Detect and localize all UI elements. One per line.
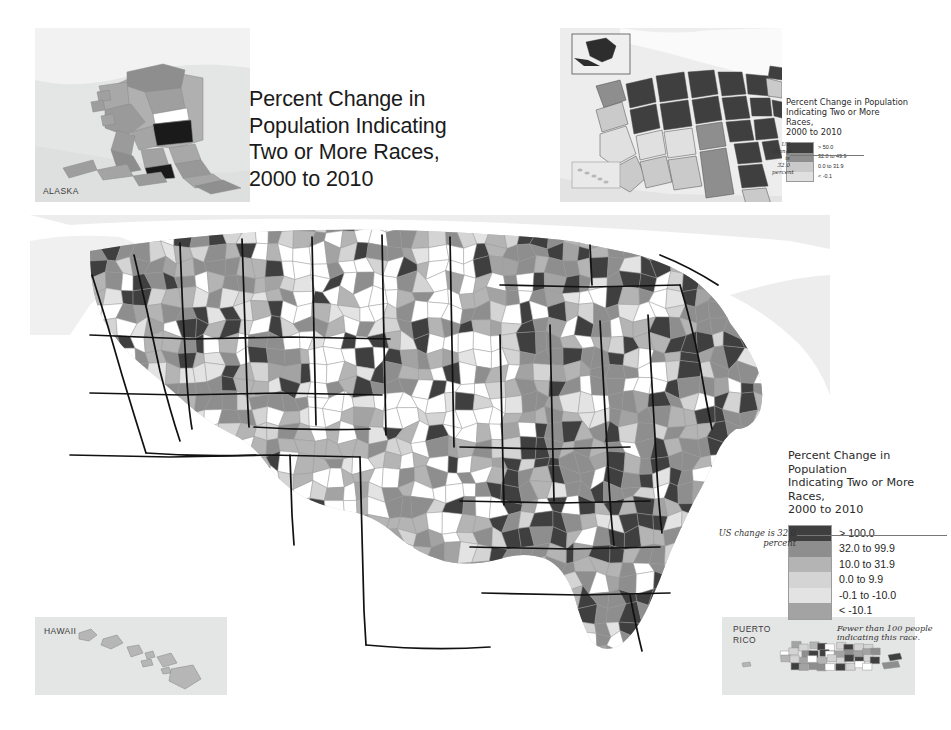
county-polygon[interactable] bbox=[300, 364, 310, 384]
state-polygon[interactable] bbox=[754, 118, 778, 140]
puerto-rico-municipio[interactable] bbox=[742, 662, 751, 667]
alaska-borough[interactable] bbox=[91, 100, 105, 112]
state-polygon[interactable] bbox=[726, 120, 754, 142]
main-legend-note: Fewer than 100 people indicating this ra… bbox=[837, 624, 948, 643]
county-polygon[interactable] bbox=[621, 472, 641, 488]
puerto-rico-municipio[interactable] bbox=[827, 655, 836, 662]
county-polygon[interactable] bbox=[504, 275, 519, 291]
puerto-rico-municipio[interactable] bbox=[836, 664, 845, 671]
county-polygon[interactable] bbox=[639, 474, 653, 488]
alaska-borough[interactable] bbox=[101, 114, 115, 126]
state-polygon[interactable] bbox=[664, 128, 696, 158]
county-polygon[interactable] bbox=[664, 352, 680, 362]
puerto-rico-municipio[interactable] bbox=[808, 656, 817, 663]
alaska-inset-label: ALASKA bbox=[43, 186, 79, 197]
state-polygon[interactable] bbox=[660, 100, 692, 130]
county-polygon[interactable] bbox=[285, 349, 301, 367]
states-inset-hawaii-isle bbox=[597, 177, 602, 180]
legend-swatch-2 bbox=[788, 557, 832, 573]
puerto-rico-municipio[interactable] bbox=[825, 664, 834, 671]
page-title: Percent Change in Population Indicating … bbox=[249, 86, 499, 192]
county-polygon[interactable] bbox=[455, 392, 475, 410]
inset-legend-rows: > 50.032.0 to 49.90.0 to 31.9< -0.1 bbox=[786, 142, 944, 182]
main-legend-title: Percent Change in Population Indicating … bbox=[788, 449, 948, 517]
puerto-rico-municipio[interactable] bbox=[863, 663, 872, 670]
county-polygon[interactable] bbox=[265, 260, 284, 277]
county-polygon[interactable] bbox=[429, 245, 449, 262]
puerto-rico-municipio[interactable] bbox=[854, 644, 863, 651]
puerto-rico-municipio[interactable] bbox=[781, 655, 790, 662]
legend-swatch-5 bbox=[788, 603, 832, 620]
county-polygon[interactable] bbox=[533, 363, 553, 381]
inset-legend: Percent Change in Population Indicating … bbox=[786, 97, 944, 182]
state-polygon[interactable] bbox=[688, 70, 718, 98]
states-inset-hawaii-isle bbox=[603, 180, 608, 183]
county-polygon[interactable] bbox=[105, 272, 123, 291]
state-polygon[interactable] bbox=[722, 96, 750, 120]
alaska-borough[interactable] bbox=[97, 90, 111, 102]
puerto-rico-municipio[interactable] bbox=[854, 651, 863, 658]
alaska-inset-panel bbox=[35, 28, 250, 202]
state-polygon[interactable] bbox=[734, 142, 762, 164]
puerto-rico-municipio[interactable] bbox=[846, 664, 855, 671]
state-polygon[interactable] bbox=[696, 122, 726, 150]
county-polygon[interactable] bbox=[121, 291, 133, 306]
state-polygon[interactable] bbox=[768, 66, 782, 80]
state-polygon[interactable] bbox=[692, 96, 722, 124]
county-polygon[interactable] bbox=[324, 487, 344, 501]
county-polygon[interactable] bbox=[308, 382, 329, 399]
county-polygon[interactable] bbox=[505, 396, 523, 414]
county-polygon[interactable] bbox=[457, 456, 472, 474]
county-polygon[interactable] bbox=[248, 346, 268, 363]
county-polygon[interactable] bbox=[383, 276, 398, 291]
county-polygon[interactable] bbox=[103, 288, 123, 305]
state-polygon[interactable] bbox=[746, 74, 770, 96]
puerto-rico-municipio[interactable] bbox=[870, 657, 879, 664]
alaska-borough[interactable] bbox=[153, 120, 193, 146]
county-polygon[interactable] bbox=[518, 422, 537, 437]
county-polygon[interactable] bbox=[310, 364, 327, 384]
state-polygon[interactable] bbox=[718, 72, 746, 96]
puerto-rico-municipio[interactable] bbox=[844, 655, 853, 662]
state-border bbox=[90, 393, 382, 395]
state-polygon[interactable] bbox=[640, 156, 672, 188]
legend-label-5: < -10.1 bbox=[832, 602, 896, 618]
county-polygon[interactable] bbox=[254, 277, 266, 293]
legend-swatch-4 bbox=[788, 588, 832, 604]
puerto-rico-municipio[interactable] bbox=[871, 648, 880, 655]
county-polygon[interactable] bbox=[533, 272, 545, 291]
inset-us-change-annotation: US change is 32.0 percent bbox=[772, 141, 790, 176]
county-polygon[interactable] bbox=[448, 456, 458, 474]
legend-label-4: -0.1 to -10.0 bbox=[832, 587, 896, 603]
county-polygon[interactable] bbox=[386, 229, 402, 248]
main-legend-leader-line bbox=[797, 535, 947, 536]
main-legend-rows: > 100.032.0 to 99.910.0 to 31.90.0 to 9.… bbox=[788, 525, 948, 620]
county-polygon[interactable] bbox=[506, 291, 520, 306]
county-polygon[interactable] bbox=[492, 439, 504, 458]
county-polygon[interactable] bbox=[355, 347, 375, 369]
hawaii-inset-label: HAWAII bbox=[44, 626, 76, 637]
county-polygon[interactable] bbox=[463, 496, 476, 516]
state-polygon[interactable] bbox=[656, 72, 688, 102]
inset-legend-label-column: > 50.032.0 to 49.90.0 to 31.9< -0.1 bbox=[814, 142, 846, 182]
county-polygon[interactable] bbox=[174, 276, 196, 289]
puerto-rico-municipio[interactable] bbox=[789, 648, 798, 655]
county-polygon[interactable] bbox=[516, 273, 534, 292]
county-polygon[interactable] bbox=[491, 320, 502, 336]
state-polygon[interactable] bbox=[668, 156, 702, 190]
county-polygon[interactable] bbox=[382, 468, 400, 488]
main-us-change-annotation: US change is 32.0 percent bbox=[691, 528, 796, 548]
puerto-rico-municipio[interactable] bbox=[790, 656, 799, 663]
legend-label-2: 10.0 to 31.9 bbox=[832, 556, 896, 572]
county-polygon[interactable] bbox=[463, 483, 476, 497]
county-polygon[interactable] bbox=[475, 497, 491, 519]
puerto-rico-municipio[interactable] bbox=[799, 644, 808, 651]
state-polygon[interactable] bbox=[750, 98, 772, 116]
county-polygon[interactable] bbox=[608, 352, 625, 365]
county-polygon[interactable] bbox=[678, 361, 701, 380]
puerto-rico-municipio[interactable] bbox=[799, 664, 808, 671]
legend-label-3: < -0.1 bbox=[814, 171, 846, 181]
county-polygon[interactable] bbox=[741, 383, 754, 394]
county-polygon[interactable] bbox=[121, 273, 133, 291]
legend-label-1: 32.0 to 99.9 bbox=[832, 540, 896, 556]
